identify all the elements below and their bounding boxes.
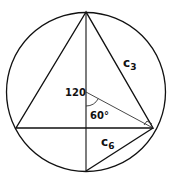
geometry-diagram: 120 60° c3 c6: [0, 0, 173, 180]
center-label: 120: [65, 87, 86, 98]
side-c6-label: c6: [101, 135, 114, 151]
side-c3-label: c3: [123, 56, 136, 72]
angle-label: 60°: [90, 110, 109, 121]
angle-arc: [86, 99, 98, 106]
